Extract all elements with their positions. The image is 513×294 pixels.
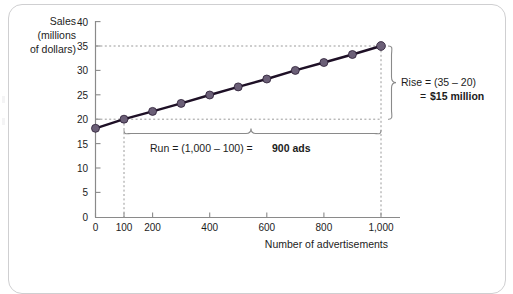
data-point	[234, 83, 242, 91]
data-point	[177, 99, 185, 107]
rise-brace	[389, 46, 397, 119]
rise-annotation-line-2: = $15 million	[420, 90, 484, 102]
y-axis-label-line-2: (millions	[37, 29, 76, 41]
y-ticklabel-10: 10	[77, 163, 89, 174]
rise-annotation-line-1: Rise = (35 – 20)	[401, 76, 476, 88]
run-brace-path	[124, 129, 381, 134]
x-ticklabel-600: 600	[258, 222, 275, 233]
x-ticklabel-200: 200	[144, 222, 161, 233]
y-ticklabel-15: 15	[77, 139, 89, 150]
data-point	[263, 75, 271, 83]
y-ticklabel-0: 0	[82, 212, 88, 223]
data-point	[92, 124, 100, 132]
run-annotation-value: 900 ads	[272, 142, 311, 154]
x-ticklabel-400: 400	[201, 222, 218, 233]
y-axis-label-line-1: Sales	[50, 15, 76, 27]
y-axis-label-line-3: of dollars)	[30, 43, 76, 55]
data-point	[377, 42, 386, 51]
y-ticklabel-5: 5	[82, 187, 88, 198]
x-ticklabel-1000: 1,000	[368, 222, 393, 233]
x-ticklabel-800: 800	[316, 222, 333, 233]
data-point	[320, 59, 328, 67]
data-point	[206, 91, 214, 99]
y-ticklabel-25: 25	[77, 90, 89, 101]
y-ticklabel-35: 35	[77, 41, 89, 52]
data-point-markers	[92, 42, 386, 133]
run-brace	[124, 129, 381, 134]
rise-brace-path	[389, 46, 397, 119]
rise-annotation-value: $15 million	[430, 90, 484, 102]
x-tick-group: 0 100 200 400 600 800 1,000	[93, 213, 394, 234]
x-ticklabel-100: 100	[116, 222, 133, 233]
data-point	[348, 51, 356, 59]
y-ticklabel-20: 20	[77, 114, 89, 125]
data-point	[149, 107, 157, 115]
run-annotation-text: Run = (1,000 – 100) =	[150, 142, 253, 154]
data-point	[291, 66, 299, 74]
rise-annotation-equals: =	[420, 90, 426, 102]
data-point	[120, 115, 128, 123]
y-ticklabel-30: 30	[77, 65, 89, 76]
x-ticklabel-0: 0	[93, 222, 99, 233]
x-axis-title: Number of advertisements	[265, 238, 388, 250]
y-ticklabel-40: 40	[77, 17, 89, 28]
run-annotation: Run = (1,000 – 100) = 900 ads	[150, 142, 311, 154]
